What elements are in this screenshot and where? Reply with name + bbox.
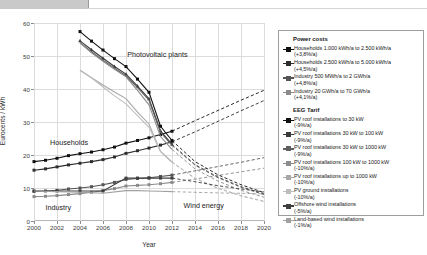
x-axis-tick-mark: [264, 221, 265, 224]
legend-item[interactable]: Offshore wind installations(-5%/a): [283, 201, 420, 214]
y-axis-label: Eurocents / kWh: [0, 97, 6, 145]
y-axis-tick-label: 30: [23, 119, 30, 126]
y-axis-tick-mark: [31, 122, 34, 123]
series-marker: [67, 193, 70, 196]
series-line: [172, 162, 264, 201]
y-axis-tick-mark: [31, 188, 34, 189]
x-axis-tick-label: 2004: [73, 224, 87, 231]
x-axis-tick-mark: [34, 221, 35, 224]
legend-item-rate: (-9%/a): [294, 137, 383, 144]
legend-marker-icon: [283, 188, 294, 195]
legend-item-rate: (-9%/a): [294, 122, 364, 129]
series-line: [172, 162, 264, 201]
legend-marker-icon: [283, 60, 294, 67]
legend-item-rate: (+4,1%/a): [294, 94, 370, 101]
legend-item-label: Land-based wind installations(-1%/a): [294, 216, 364, 229]
x-axis-tick-mark: [126, 221, 127, 224]
series-marker: [90, 160, 93, 163]
legend-item-label: PV roof installations up to 1000 kW(-10%…: [294, 173, 377, 186]
legend-item[interactable]: PV roof installations 30 kW to 100 kW(-9…: [283, 130, 420, 143]
series-marker: [33, 169, 36, 172]
x-axis-tick-label: 2018: [234, 224, 248, 231]
x-axis-tick-mark: [195, 221, 196, 224]
x-axis-tick-label: 2016: [211, 224, 225, 231]
legend-marker-icon: [283, 145, 294, 152]
legend-item[interactable]: PV roof installations 100 kW to 1000 kW(…: [283, 159, 420, 172]
legend-item-rate: (-10%/a): [294, 194, 348, 201]
chart-annotation-label: Wind energy: [184, 201, 224, 210]
legend-item-label: Industry 500 MWh/a to 2 GWh/a(+4,8%/a): [294, 73, 370, 86]
series-marker: [90, 151, 93, 154]
x-axis-tick-label: 2014: [188, 224, 202, 231]
series-marker: [67, 154, 70, 157]
y-axis-tick-mark: [31, 23, 34, 24]
legend-group-title-power-costs: Power costs: [293, 36, 420, 43]
x-axis-tick-mark: [57, 221, 58, 224]
legend-item-rate: (-10%/a): [294, 165, 389, 172]
x-axis-tick-mark: [149, 221, 150, 224]
series-marker: [102, 49, 105, 52]
legend-marker-icon: [283, 89, 294, 96]
plot-area: 2000200220042006200820102012201420162018…: [34, 23, 264, 221]
legend-marker-icon: [283, 217, 294, 224]
x-axis-tick-label: 2010: [142, 224, 156, 231]
legend-items-eeg-tarif: PV roof installations to 30 kW(-9%/a)PV …: [283, 116, 420, 229]
series-marker: [78, 39, 82, 42]
series-marker: [136, 177, 139, 180]
series-marker: [148, 91, 151, 94]
x-axis-tick-mark: [218, 221, 219, 224]
series-line: [172, 144, 264, 194]
series-marker: [148, 177, 151, 180]
series-marker: [136, 78, 139, 81]
x-axis-tick-label: 2002: [50, 224, 64, 231]
series-marker: [148, 136, 151, 139]
legend-item[interactable]: PV roof installations 30 kW to 1000 kW(-…: [283, 144, 420, 157]
x-axis-tick-mark: [103, 221, 104, 224]
series-marker: [136, 184, 139, 187]
series-marker: [171, 139, 174, 142]
chart-figure: Eurocents / kWh Year 2000200220042006200…: [0, 9, 275, 255]
legend-item[interactable]: Industry 20 GWh/a to 70 GWh/a(+4,1%/a): [283, 88, 420, 101]
chart-annotation-label: Industry: [46, 203, 72, 212]
y-axis-tick-label: 20: [23, 152, 30, 159]
series-line: [172, 178, 264, 192]
series-marker: [102, 183, 105, 186]
legend-item[interactable]: Households 1.000 kWh/a to 2.500 kWh/a(+3…: [283, 45, 420, 58]
x-axis-tick-label: 2000: [27, 224, 41, 231]
legend-marker-icon: [283, 131, 294, 138]
series-marker: [102, 189, 105, 192]
y-axis-tick-label: 60: [23, 20, 30, 27]
legend-item-label: PV roof installations 30 kW to 1000 kW(-…: [294, 144, 386, 157]
legend-items-power-costs: Households 1.000 kWh/a to 2.500 kWh/a(+3…: [283, 45, 420, 101]
legend-marker-icon: [283, 117, 294, 124]
series-marker: [102, 158, 105, 161]
series-marker: [56, 194, 59, 197]
legend-item[interactable]: PV roof installations up to 1000 kW(-10%…: [283, 173, 420, 186]
series-marker: [125, 177, 128, 180]
legend-item-label: PV roof installations to 30 kW(-9%/a): [294, 116, 364, 129]
series-marker: [90, 185, 93, 188]
series-line: [172, 90, 264, 131]
legend-item[interactable]: PV ground installations(-10%/a): [283, 187, 420, 200]
chart-legend: Power costs Households 1.000 kWh/a to 2.…: [278, 30, 424, 216]
series-marker: [79, 152, 82, 155]
x-axis-label: Year: [142, 241, 155, 248]
legend-item[interactable]: PV roof installations to 30 kW(-9%/a): [283, 116, 420, 129]
legend-item-rate: (-9%/a): [294, 151, 386, 158]
y-axis-tick-mark: [31, 89, 34, 90]
series-marker: [44, 195, 47, 198]
series-marker: [125, 185, 128, 188]
legend-item[interactable]: Land-based wind installations(-1%/a): [283, 216, 420, 229]
legend-item-label: Industry 20 GWh/a to 70 GWh/a(+4,1%/a): [294, 88, 370, 101]
legend-item[interactable]: Households 2.500 kWh/a to 5.000 kWh/a(+4…: [283, 59, 420, 72]
legend-item[interactable]: Industry 500 MWh/a to 2 GWh/a(+4,8%/a): [283, 73, 420, 86]
series-marker: [159, 177, 162, 180]
y-axis-tick-label: 0: [27, 218, 30, 225]
series-line: [172, 101, 264, 142]
series-marker: [44, 167, 47, 170]
x-axis-tick-label: 2008: [119, 224, 133, 231]
legend-marker-icon: [283, 74, 294, 81]
legend-marker-icon: [283, 160, 294, 167]
series-marker: [79, 187, 82, 190]
legend-item-label: PV ground installations(-10%/a): [294, 187, 348, 200]
